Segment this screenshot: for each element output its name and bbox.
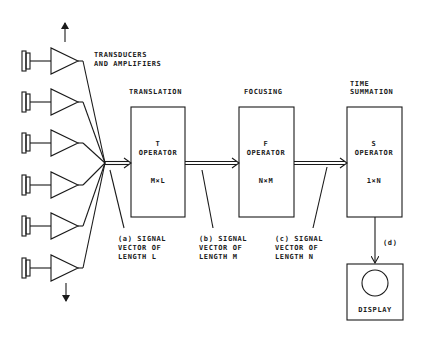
vector-arrow-c [294, 158, 347, 168]
stage-heading-time: TIME [350, 80, 369, 88]
channel-4 [22, 172, 83, 198]
leader-line-c [313, 167, 327, 228]
f-operator-dims: N×M [259, 177, 273, 185]
leader-line-a [110, 170, 124, 228]
f-operator-block [239, 107, 294, 217]
transducers-label-line2: AND AMPLIFIERS [94, 60, 161, 68]
s-operator-symbol: S [372, 140, 377, 148]
amplifier-icon [51, 48, 78, 74]
stage-heading-summation: SUMMATION [350, 88, 393, 96]
transducer-array [22, 48, 83, 281]
s-operator-block [347, 107, 402, 217]
beamforming-diagram: TRANSDUCERS AND AMPLIFIERS TRANSLATION F… [0, 0, 423, 338]
transducer-icon [22, 51, 26, 71]
output-label: (d) [383, 239, 397, 247]
amplifier-icon [51, 213, 78, 239]
transducer-icon [22, 175, 26, 195]
amplifier-icon [51, 172, 78, 198]
s-operator-label: OPERATOR [355, 149, 394, 157]
channel-5 [22, 213, 83, 239]
transducer-icon [22, 92, 26, 112]
signal-c-line2: VECTOR OF [275, 244, 318, 252]
signal-c-line1: (c) SIGNAL [275, 235, 323, 243]
signal-b-line1: (b) SIGNAL [199, 235, 247, 243]
display-label: DISPLAY [358, 306, 392, 314]
vector-arrow-b [185, 158, 239, 168]
transducer-icon [22, 216, 26, 236]
t-operator-label: OPERATOR [139, 149, 178, 157]
display-screen-icon [362, 270, 388, 296]
t-operator-symbol: T [156, 140, 161, 148]
vector-arrow-a [105, 158, 131, 168]
amplifier-icon [51, 89, 78, 115]
stage-heading-translation: TRANSLATION [129, 88, 182, 96]
signal-c-line3: LENGTH N [275, 253, 314, 261]
amplifier-icon [51, 255, 78, 281]
channel-2 [22, 89, 83, 115]
f-operator-symbol: F [264, 140, 269, 148]
t-operator-block [131, 107, 185, 217]
signal-b-line2: VECTOR OF [199, 244, 242, 252]
transducer-icon [22, 258, 26, 278]
transducers-label-line1: TRANSDUCERS [94, 51, 147, 59]
channel-1 [22, 48, 83, 74]
amplifier-icon [51, 130, 78, 156]
channel-6 [22, 255, 83, 281]
signal-b-line3: LENGTH M [199, 253, 238, 261]
signal-a-line2: VECTOR OF [118, 244, 161, 252]
channel-3 [22, 130, 83, 156]
s-operator-dims: 1×N [367, 177, 381, 185]
f-operator-label: OPERATOR [247, 149, 286, 157]
signal-a-line3: LENGTH L [118, 253, 157, 261]
signal-a-line1: (a) SIGNAL [118, 235, 166, 243]
leader-line-b [202, 170, 213, 228]
fan-in-lines [83, 61, 105, 268]
transducer-icon [22, 133, 26, 153]
stage-heading-focusing: FOCUSING [244, 88, 283, 96]
t-operator-dims: M×L [151, 177, 165, 185]
